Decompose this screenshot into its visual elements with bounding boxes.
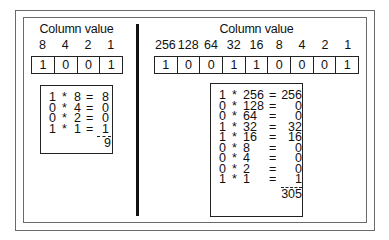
left-bit-row: 1 0 0 1: [31, 56, 123, 74]
left-col-value: 8: [31, 38, 54, 52]
right-bit-cell: 0: [200, 57, 223, 73]
right-bit-cell: 0: [291, 57, 314, 73]
calc-result: 1: [99, 124, 109, 135]
calc-col: 1: [243, 174, 269, 185]
right-bit-row: 1 0 0 1 1 0 0 0 1: [154, 56, 359, 74]
calc-total-row: 9: [49, 136, 112, 147]
right-bit-cell: 1: [336, 57, 358, 73]
right-col-value: 128: [177, 38, 200, 52]
left-col-value: 4: [54, 38, 77, 52]
left-bit-cell: 0: [55, 57, 78, 73]
right-bit-cell: 1: [246, 57, 269, 73]
calc-bit: 1: [219, 174, 232, 185]
calc-eq: =: [269, 174, 281, 185]
left-col-value: 2: [77, 38, 100, 52]
right-col-value: 2: [313, 38, 336, 52]
right-col-value: 4: [291, 38, 314, 52]
calc-result: 1: [281, 174, 302, 185]
right-col-value: 64: [200, 38, 223, 52]
right-bit-cell: 0: [268, 57, 291, 73]
calc-row: 1 * 1 = 1: [49, 124, 112, 135]
right-col-value: 1: [336, 38, 359, 52]
left-bit-cell: 0: [78, 57, 101, 73]
right-col-value: 8: [268, 38, 291, 52]
left-bit-cell: 1: [100, 57, 122, 73]
left-bit-cell: 1: [32, 57, 55, 73]
right-bit-cell: 0: [314, 57, 337, 73]
left-caption: Column value: [31, 22, 122, 36]
left-calculation-box: 1 * 8 = 8 0 * 4 = 0 0 * 2 = 0 1 * 1 = 1 …: [40, 85, 113, 154]
section-divider: [136, 24, 139, 216]
calc-row: 1 * 1 = 1: [219, 174, 302, 185]
calc-eq: =: [86, 124, 99, 135]
calc-total: 305: [281, 187, 302, 198]
calc-bit: 1: [49, 124, 62, 135]
right-col-value: 16: [245, 38, 268, 52]
right-calculation-box: 1 * 256 = 256 0 * 128 = 0 0 * 64 = 0 1 *…: [210, 83, 303, 217]
calc-op: *: [62, 124, 74, 135]
left-column-values: 8 4 2 1: [31, 38, 122, 52]
right-bit-cell: 1: [155, 57, 178, 73]
right-column-values: 256 128 64 32 16 8 4 2 1: [154, 38, 359, 52]
calc-total-row: 305: [219, 187, 302, 198]
right-col-value: 32: [222, 38, 245, 52]
right-caption: Column value: [154, 22, 359, 36]
left-col-value: 1: [99, 38, 122, 52]
calc-op: *: [232, 174, 243, 185]
right-bit-cell: 1: [223, 57, 246, 73]
right-bit-cell: 0: [178, 57, 201, 73]
right-col-value: 256: [154, 38, 177, 52]
calc-col: 1: [74, 124, 86, 135]
calc-total: 9: [97, 136, 111, 147]
